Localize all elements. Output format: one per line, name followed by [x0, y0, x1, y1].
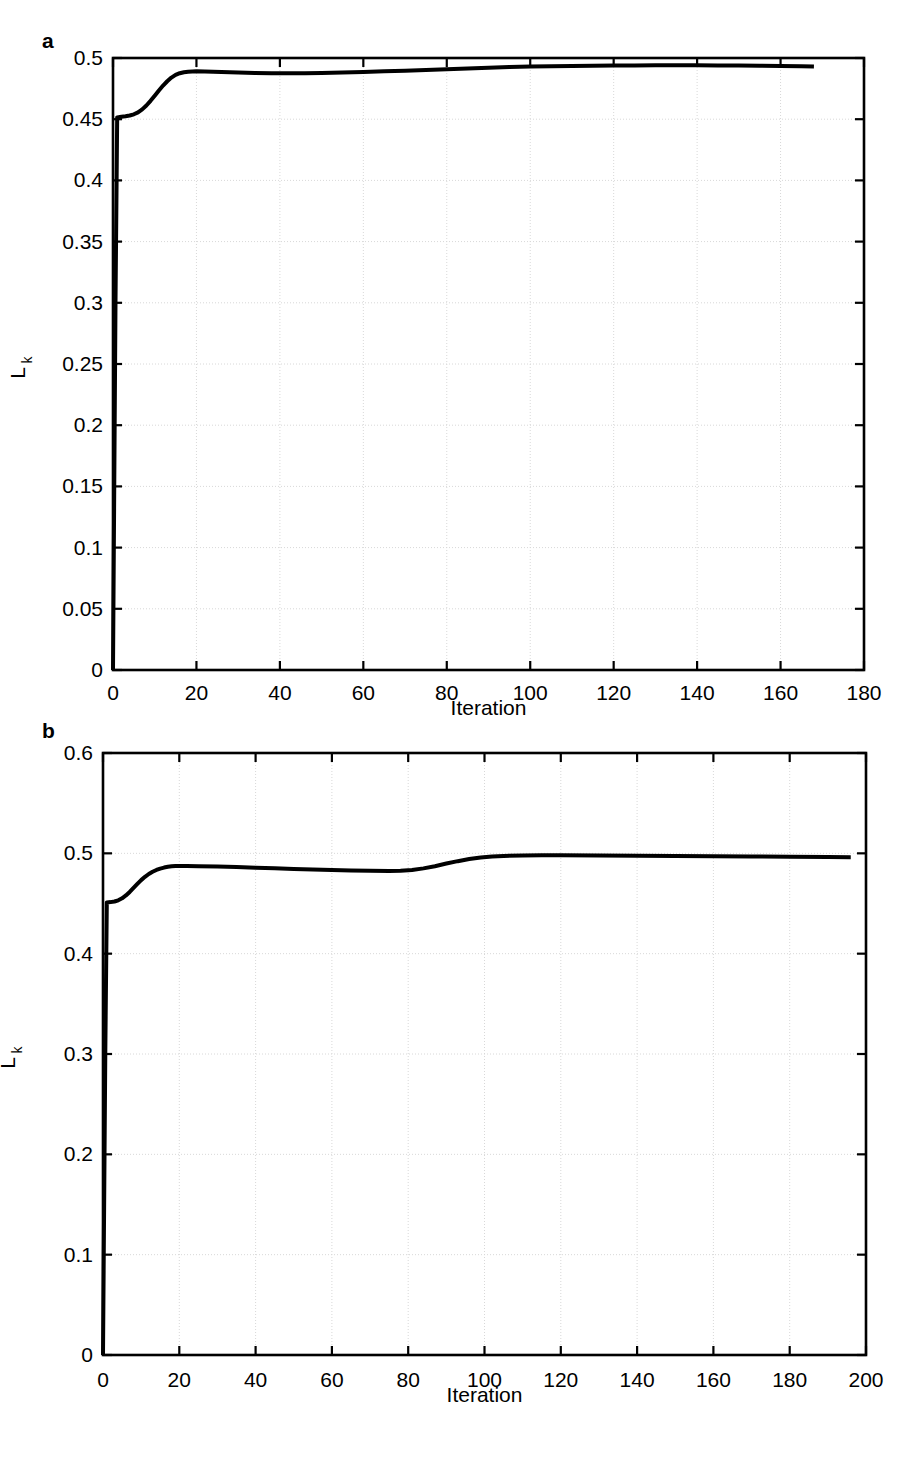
x-axis-title: Iteration [447, 1383, 523, 1406]
y-axis-title: Lk [6, 356, 35, 379]
y-tick-label: 0.4 [64, 942, 94, 965]
x-tick-label: 40 [244, 1368, 267, 1391]
x-tick-label: 160 [763, 681, 798, 704]
x-tick-label: 180 [772, 1368, 807, 1391]
y-axis-title-base: L [6, 367, 29, 379]
x-tick-label: 60 [320, 1368, 343, 1391]
y-tick-label: 0.2 [64, 1142, 93, 1165]
chart-a: 02040608010012014016018000.050.10.150.20… [0, 0, 910, 735]
y-axis-title-base: L [0, 1057, 19, 1069]
y-tick-label: 0 [91, 658, 103, 681]
x-tick-label: 20 [168, 1368, 191, 1391]
y-tick-label: 0.2 [74, 413, 103, 436]
x-tick-label: 120 [596, 681, 631, 704]
data-line [103, 855, 851, 1355]
y-tick-label: 0.25 [62, 352, 103, 375]
x-tick-label: 0 [107, 681, 119, 704]
x-tick-label: 140 [620, 1368, 655, 1391]
y-tick-label: 0.5 [74, 46, 103, 69]
y-tick-label: 0.35 [62, 230, 103, 253]
y-tick-label: 0.1 [74, 536, 103, 559]
gridlines [113, 58, 864, 670]
x-tick-label: 80 [397, 1368, 420, 1391]
y-tick-label: 0.1 [64, 1243, 93, 1266]
x-tick-label: 200 [848, 1368, 883, 1391]
tick-labels: 02040608010012014016018000.050.10.150.20… [62, 46, 881, 704]
y-axis-title-subscript: k [19, 356, 35, 364]
gridlines [103, 753, 866, 1355]
x-tick-label: 140 [680, 681, 715, 704]
y-axis-title: Lk [0, 1046, 25, 1069]
x-tick-label: 0 [97, 1368, 109, 1391]
y-tick-label: 0.3 [74, 291, 103, 314]
y-tick-label: 0.6 [64, 741, 93, 764]
y-tick-label: 0.3 [64, 1042, 93, 1065]
data-line [113, 65, 814, 670]
y-tick-label: 0.15 [62, 474, 103, 497]
x-tick-label: 40 [268, 681, 291, 704]
x-tick-label: 120 [543, 1368, 578, 1391]
x-tick-label: 180 [846, 681, 881, 704]
y-tick-label: 0.05 [62, 597, 103, 620]
y-axis-title-subscript: k [9, 1046, 25, 1054]
y-tick-label: 0.5 [64, 841, 93, 864]
y-tick-label: 0 [81, 1343, 93, 1366]
tick-labels: 02040608010012014016018020000.10.20.30.4… [64, 741, 884, 1391]
y-tick-label: 0.4 [74, 168, 104, 191]
x-tick-label: 60 [352, 681, 375, 704]
panel-b: b 02040608010012014016018020000.10.20.30… [0, 710, 910, 1461]
chart-b: 02040608010012014016018020000.10.20.30.4… [0, 710, 910, 1461]
figure-container: a 02040608010012014016018000.050.10.150.… [0, 0, 910, 1461]
x-tick-label: 160 [696, 1368, 731, 1391]
x-tick-label: 20 [185, 681, 208, 704]
panel-a: a 02040608010012014016018000.050.10.150.… [0, 0, 910, 735]
y-tick-label: 0.45 [62, 107, 103, 130]
